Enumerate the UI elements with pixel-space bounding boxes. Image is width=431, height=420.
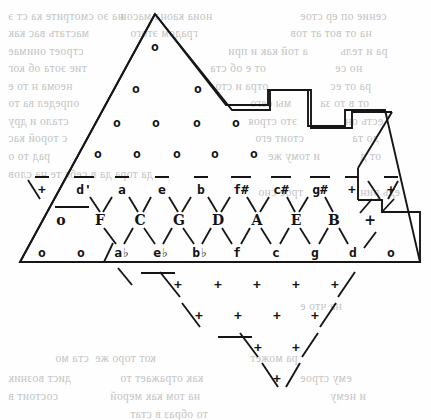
tonnetz-lattice-figure — [0, 0, 431, 420]
note-label-flat: g — [311, 246, 319, 259]
note-label-sharp: c# — [273, 183, 289, 196]
note-label-sharp: b — [197, 183, 205, 196]
note-label-natural: B — [328, 213, 340, 227]
lattice-circle-marker: o — [250, 147, 258, 160]
lattice-plus-marker: + — [273, 372, 281, 385]
note-label-flat: d — [349, 246, 357, 259]
note-label-natural: C — [134, 213, 145, 227]
lattice-circle-marker: o — [194, 82, 202, 95]
lattice-circle-marker: o — [132, 82, 140, 95]
lattice-circle-marker: o — [151, 40, 159, 53]
overline-mark — [74, 176, 94, 178]
overline-mark — [35, 176, 49, 178]
scanned-page: на эо смотрите ка ст эноиа каона масоисе… — [0, 0, 431, 420]
lattice-circle-marker: o — [113, 116, 121, 129]
note-label-flat: o — [387, 246, 395, 259]
note-label-flat: e♭ — [153, 246, 169, 259]
lattice-plus-marker: + — [195, 309, 203, 322]
note-label-flat: o — [38, 246, 46, 259]
note-label-sharp: + — [348, 183, 356, 196]
underline-left — [55, 206, 89, 208]
note-label-sharp: a — [118, 183, 126, 196]
note-label-natural: o — [56, 213, 65, 227]
lattice-plus-marker: + — [292, 341, 300, 354]
lattice-plus-marker: + — [174, 278, 182, 291]
lattice-circle-marker: o — [94, 147, 102, 160]
overline-mark — [345, 176, 359, 178]
lattice-plus-marker: + — [331, 278, 339, 291]
lattice-plus-marker: + — [292, 278, 300, 291]
lower-triangle-strokes — [118, 268, 355, 387]
overline-mark — [115, 176, 129, 178]
note-label-sharp: + — [387, 183, 395, 196]
note-label-natural: E — [291, 213, 302, 227]
lattice-plus-marker: + — [254, 341, 262, 354]
overline-mark — [384, 176, 398, 178]
note-label-sharp: f# — [233, 183, 249, 196]
note-label-sharp: g# — [312, 183, 328, 196]
lattice-circle-marker: o — [173, 147, 181, 160]
note-label-natural: + — [364, 213, 376, 227]
lattice-circle-marker: o — [232, 116, 240, 129]
overline-mark — [310, 176, 330, 178]
underline-lowest — [218, 336, 252, 338]
lattice-circle-marker: o — [133, 147, 141, 160]
overline-mark — [231, 176, 251, 178]
lattice-plus-marker: + — [214, 278, 222, 291]
underline-lower — [141, 272, 175, 274]
note-label-sharp: d' — [76, 183, 92, 196]
note-label-flat: a♭ — [114, 246, 130, 259]
note-label-flat: o — [77, 246, 85, 259]
note-label-sharp: + — [38, 183, 46, 196]
overline-mark — [155, 176, 169, 178]
lattice-circle-marker: o — [193, 116, 201, 129]
overline-mark — [271, 176, 291, 178]
lattice-circle-marker: o — [211, 147, 219, 160]
note-label-flat: c — [272, 246, 280, 259]
note-label-sharp: e — [158, 183, 166, 196]
overline-mark — [194, 176, 208, 178]
note-label-natural: A — [252, 213, 263, 227]
lattice-plus-marker: + — [311, 309, 319, 322]
note-label-natural: D — [212, 213, 224, 227]
note-label-flat: f — [233, 246, 241, 259]
lattice-plus-marker: + — [234, 309, 242, 322]
note-label-natural: F — [95, 213, 105, 227]
lattice-plus-marker: + — [253, 278, 261, 291]
lattice-plus-marker: + — [273, 309, 281, 322]
note-label-flat: b♭ — [192, 246, 208, 259]
note-label-natural: G — [173, 213, 185, 227]
lattice-circle-marker: o — [152, 116, 160, 129]
